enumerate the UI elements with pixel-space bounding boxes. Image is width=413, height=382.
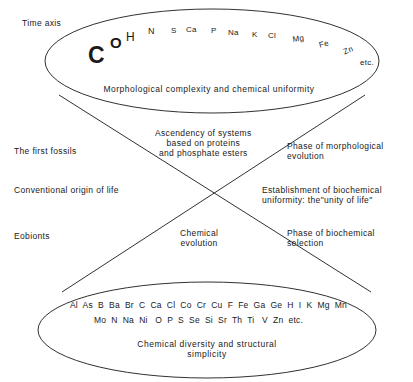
top-element-symbol: N — [148, 26, 155, 36]
left-stage-label: The first fossils — [14, 146, 77, 156]
top-element-symbol: C — [88, 42, 105, 69]
top-element-symbol: P — [211, 26, 217, 35]
left-stage-label: Conventional origin of life — [14, 185, 119, 195]
top-elements-etc-label: etc. — [360, 58, 374, 67]
top-element-symbol: H — [126, 30, 135, 44]
right-stage-label-line: uniformity: the"unity of life" — [262, 195, 382, 205]
top-element-symbol: Ca — [186, 25, 197, 34]
top-element-symbol: O — [110, 34, 122, 51]
center-stage-label-line: evolution — [180, 238, 218, 248]
bottom-element-row-2: Mo N Na Ni O P S Se Si Sr Th Ti V Zn etc… — [36, 315, 361, 325]
top-element-symbol: Mg — [292, 33, 305, 44]
center-stage-label-line: based on proteins — [155, 138, 252, 148]
right-stage-label-line: selection — [287, 238, 375, 248]
center-stage-label: Ascendency of systemsbased on proteinsan… — [155, 128, 252, 158]
bottom-ellipse-caption-line1: Chemical diversity and structural — [107, 339, 307, 349]
center-stage-label-line: and phosphate esters — [155, 148, 252, 158]
top-element-symbol: Na — [228, 28, 239, 37]
diagram-canvas: Time axis COHNSCaPNaKClMgFeZn etc. Morph… — [0, 0, 413, 382]
center-stage-label: Chemicalevolution — [180, 228, 218, 248]
top-element-symbol: Cl — [268, 31, 276, 40]
right-stage-label: Establishment of biochemicaluniformity: … — [262, 185, 382, 205]
right-stage-label: Phase of biochemicalselection — [287, 228, 375, 248]
right-stage-label-line: Establishment of biochemical — [262, 185, 382, 195]
time-axis-label: Time axis — [22, 18, 61, 28]
bottom-ellipse — [38, 282, 376, 378]
right-stage-label: Phase of morphologicalevolution — [287, 141, 384, 161]
center-stage-label-line: Ascendency of systems — [155, 128, 252, 138]
top-element-symbol: K — [252, 30, 258, 39]
center-stage-label-line: Chemical — [180, 228, 218, 238]
left-stage-label: Eobionts — [14, 231, 50, 241]
bottom-ellipse-caption-line2: simplicity — [107, 349, 307, 359]
top-element-symbol: S — [171, 26, 177, 35]
right-stage-label-line: Phase of biochemical — [287, 228, 375, 238]
bottom-element-row-1: Al As B Ba Br C Ca Cl Co Cr Cu F Fe Ga G… — [36, 300, 381, 310]
right-stage-label-line: evolution — [287, 151, 384, 161]
top-ellipse-caption: Morphological complexity and chemical un… — [94, 84, 324, 94]
right-stage-label-line: Phase of morphological — [287, 141, 384, 151]
